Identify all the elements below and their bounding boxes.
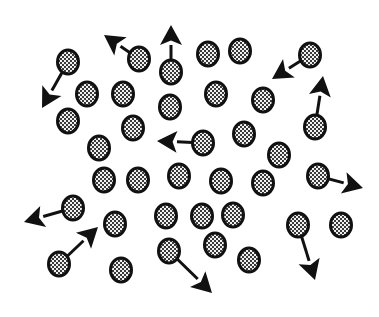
arrow-head-icon — [299, 258, 320, 280]
arrow-head-icon — [24, 206, 46, 227]
particle — [156, 204, 177, 228]
arrow-head-icon — [309, 76, 331, 97]
particle — [123, 116, 144, 140]
particle — [113, 82, 134, 106]
arrow-head-icon — [160, 25, 182, 45]
particle — [192, 204, 213, 228]
particle — [58, 109, 79, 133]
particle-diagram — [0, 0, 379, 317]
particle — [89, 136, 110, 160]
particle — [63, 196, 84, 220]
particle — [159, 239, 180, 263]
particle — [234, 122, 255, 146]
particle-diagram-canvas — [0, 0, 379, 317]
particles — [49, 39, 352, 282]
particle — [198, 42, 219, 66]
arrow-head-icon — [157, 131, 177, 153]
particle — [253, 88, 274, 112]
arrow-head-icon — [272, 59, 295, 79]
arrow-head-icon — [341, 172, 363, 193]
particle — [288, 213, 309, 237]
particle — [211, 169, 232, 193]
particle — [223, 203, 244, 227]
particle — [331, 213, 352, 237]
particle — [128, 168, 149, 192]
particle — [111, 258, 132, 282]
particle — [94, 168, 115, 192]
arrow-head-icon — [104, 35, 127, 55]
particle — [239, 248, 260, 272]
particle — [269, 143, 290, 167]
particle — [305, 115, 326, 139]
particle — [300, 43, 321, 67]
particle — [169, 164, 190, 188]
particle — [308, 164, 329, 188]
particle — [129, 47, 150, 71]
particle — [160, 95, 181, 119]
particle — [253, 171, 274, 195]
particle — [105, 212, 126, 236]
particle — [193, 131, 214, 155]
particle — [77, 82, 98, 106]
particle — [161, 60, 182, 84]
particle — [49, 252, 70, 276]
particle — [58, 50, 79, 74]
particle — [205, 233, 226, 257]
particle — [230, 39, 251, 63]
particle — [206, 82, 227, 106]
